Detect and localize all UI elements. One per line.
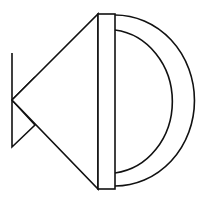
inner-arc (115, 30, 172, 173)
cone-shape (12, 14, 98, 189)
band-rectangle (98, 14, 115, 189)
symbol-drawing (0, 0, 210, 201)
diagram-canvas (0, 0, 210, 201)
outer-arc (115, 15, 194, 186)
